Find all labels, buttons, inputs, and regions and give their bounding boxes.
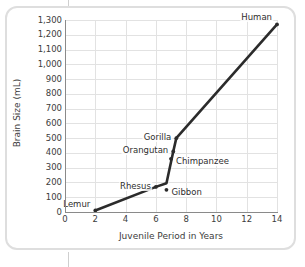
y-tick-label: 500 [28, 134, 62, 143]
y-tick-label: 900 [28, 75, 62, 84]
x-tick-label: 2 [93, 215, 98, 224]
data-point-marker [165, 188, 169, 192]
plot-area: LemurRhesusGibbonChimpanzeeOrangutanGori… [65, 20, 277, 212]
data-point-marker [171, 150, 175, 154]
y-tick-label: 700 [28, 104, 62, 113]
point-label-human: Human [240, 13, 273, 22]
x-tick-label: 10 [211, 215, 222, 224]
x-axis-line [65, 212, 278, 213]
point-label-gibbon: Gibbon [170, 188, 202, 197]
point-label-orangutan: Orangutan [122, 146, 170, 155]
x-tick-label: 0 [62, 215, 67, 224]
data-point-marker [275, 23, 279, 27]
y-axis-title: Brain Size (mL) [12, 53, 22, 173]
y-tick-label: 200 [28, 178, 62, 187]
data-point-marker [169, 157, 173, 161]
y-tick-label: 1,300 [28, 16, 62, 25]
y-tick-label: 1,200 [28, 30, 62, 39]
x-axis-title: Juvenile Period in Years [65, 231, 277, 241]
y-tick-label: 1,100 [28, 45, 62, 54]
x-tick-label: 14 [272, 215, 283, 224]
x-axis-tick-labels: 02468101214 [0, 215, 305, 229]
data-point-marker [174, 136, 178, 140]
y-tick-label: 1,000 [28, 60, 62, 69]
x-tick-label: 4 [123, 215, 128, 224]
y-tick-label: 400 [28, 148, 62, 157]
data-point-marker [154, 185, 158, 189]
x-tick-label: 12 [241, 215, 252, 224]
y-tick-label: 300 [28, 163, 62, 172]
y-axis-line [65, 20, 66, 213]
x-tick-label: 6 [153, 215, 158, 224]
y-tick-label: 800 [28, 89, 62, 98]
y-tick-label: 100 [28, 193, 62, 202]
y-tick-label: 600 [28, 119, 62, 128]
x-tick-label: 8 [183, 215, 188, 224]
data-series-line [65, 20, 277, 212]
point-label-lemur: Lemur [62, 200, 91, 209]
point-label-rhesus: Rhesus [119, 182, 152, 191]
gridline-vertical [277, 20, 278, 212]
crop-mark-bottom [68, 252, 69, 267]
point-label-gorilla: Gorilla [143, 133, 173, 142]
point-label-chimpanzee: Chimpanzee [175, 157, 230, 166]
